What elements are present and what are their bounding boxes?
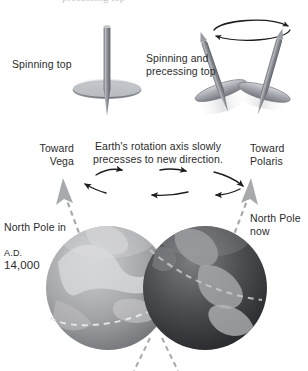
label-toward-vega: Toward Vega	[8, 142, 74, 167]
arrow-left-3	[216, 189, 240, 195]
axis-arrowhead-vega	[56, 178, 73, 205]
globe-earth-now	[143, 223, 267, 350]
label-spinning-top: Spinning top	[12, 58, 96, 71]
axis-arrowhead-polaris	[241, 178, 258, 205]
arrow-left-1	[85, 184, 106, 193]
label-north-pole-future-year: 14,000	[4, 259, 40, 271]
label-precessing-top: Spinning and precessing top	[146, 52, 238, 77]
arrow-right-2	[160, 169, 186, 171]
label-toward-polaris: Toward Polaris	[250, 142, 306, 167]
precessing-top-left-head	[197, 31, 207, 43]
arrow-right-3	[214, 172, 243, 186]
spinning-top-tip	[104, 90, 110, 116]
caption-earth-precession: Earth's rotation axis slowly precesses t…	[76, 140, 240, 165]
precessing-top-right-shaft	[261, 38, 283, 95]
label-north-pole-future: North Pole in A.D. 14,000	[4, 208, 96, 272]
arrow-right-1	[96, 169, 122, 175]
precession-arrow-rows	[85, 169, 243, 195]
label-north-pole-future-line1: North Pole in	[4, 221, 66, 233]
spinning-top-shaft-cap	[104, 25, 111, 28]
spinning-top-illustration	[63, 25, 151, 116]
precession-arc-upper	[214, 20, 288, 30]
spinning-top-shaft	[104, 26, 111, 92]
precessing-top-right-head	[276, 28, 286, 40]
arrow-left-2	[152, 192, 188, 195]
label-north-pole-future-era: A.D.	[4, 248, 22, 258]
label-north-pole-now: North Pole now	[250, 212, 306, 237]
axis-line-polaris-lower	[162, 338, 178, 371]
